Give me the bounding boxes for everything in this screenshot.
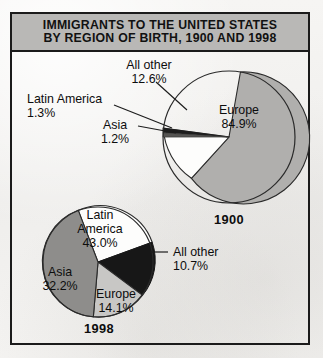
- label-1900-all-other-name: All other: [126, 58, 171, 72]
- label-1998-latin-america-name-1: Latin: [87, 208, 114, 222]
- label-1900-asia-name: Asia: [103, 118, 127, 132]
- label-1900-latin-america-name: Latin America: [27, 92, 102, 106]
- label-1900-asia-value: 1.2%: [101, 132, 129, 146]
- label-1900-latin-america-value: 1.3%: [27, 106, 55, 120]
- label-1998-latin-america-name-2: America: [77, 222, 122, 236]
- label-1998-all-other-name: All other: [173, 245, 218, 259]
- year-label-1998: 1998: [68, 322, 130, 336]
- label-1998-europe-name: Europe: [96, 287, 136, 301]
- label-1900-all-other-value: 12.6%: [131, 72, 166, 86]
- label-1900-asia: Asia 1.2%: [92, 118, 138, 146]
- label-1998-latin-america: Latin America 43.0%: [64, 208, 136, 250]
- label-1998-latin-america-value: 43.0%: [82, 236, 117, 250]
- label-1900-europe-value: 84.9%: [221, 117, 256, 131]
- label-1998-asia-name: Asia: [48, 265, 72, 279]
- label-1900-latin-america: Latin America 1.3%: [27, 92, 102, 120]
- year-label-1900: 1900: [198, 213, 260, 227]
- label-1998-europe-value: 14.1%: [98, 301, 133, 315]
- label-1900-europe: Europe 84.9%: [208, 103, 270, 131]
- label-1998-all-other: All other 10.7%: [173, 245, 218, 273]
- label-1998-asia-value: 32.2%: [42, 279, 77, 293]
- label-1998-all-other-value: 10.7%: [173, 259, 208, 273]
- pie-charts-canvas: [0, 0, 323, 358]
- label-1998-asia: Asia 32.2%: [34, 265, 86, 293]
- label-1900-all-other: All other 12.6%: [110, 58, 188, 86]
- label-1998-europe: Europe 14.1%: [88, 287, 144, 315]
- label-1900-europe-name: Europe: [219, 103, 259, 117]
- pie-chart-1900: [163, 71, 310, 204]
